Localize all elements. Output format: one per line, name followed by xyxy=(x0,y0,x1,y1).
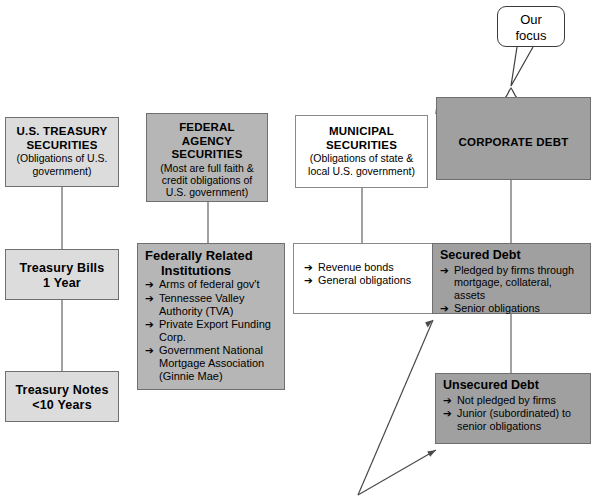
node-subtitle: (Obligations of U.S. government) xyxy=(12,152,112,177)
node-federally-related-institutions: Federally Related Institutions ➔Arms of … xyxy=(137,243,285,390)
node-secured-debt: Secured Debt ➔Pledged by firms through m… xyxy=(432,243,591,314)
node-corporate-debt: CORPORATE DEBT xyxy=(436,97,591,180)
list-item-label: Private Export Funding Corp. xyxy=(159,318,271,343)
subtitle-line-1: (Obligations of U.S. xyxy=(16,152,107,164)
node-treasury-bills: Treasury Bills 1 Year xyxy=(5,249,119,300)
subtitle-line-2: government) xyxy=(33,165,92,177)
title-line-1: Treasury Notes xyxy=(15,383,108,397)
node-title: CORPORATE DEBT xyxy=(437,136,590,150)
title-line-1: Federally Related xyxy=(145,248,253,263)
title-line-1: Treasury Bills xyxy=(20,261,105,275)
callout-line-2: focus xyxy=(515,28,546,43)
arrow-bullet-icon: ➔ xyxy=(304,274,313,286)
node-title: U.S. TREASURY SECURITIES xyxy=(12,125,112,152)
list-item-label: Junior (subordinated) to senior obligati… xyxy=(457,407,571,432)
subtitle-line-1: (Obligations of state & xyxy=(310,152,413,164)
arrow-bullet-icon: ➔ xyxy=(440,264,449,276)
node-title: FEDERAL AGENCY SECURITIES xyxy=(153,121,261,162)
list-item: ➔Revenue bonds xyxy=(304,261,431,274)
list-item: ➔Senior obligations xyxy=(440,302,585,315)
arrow-bullet-icon: ➔ xyxy=(145,318,154,330)
bullet-list: ➔Arms of federal gov't ➔Tennessee Valley… xyxy=(145,278,279,383)
bullet-list: ➔Pledged by firms through mortgage, coll… xyxy=(440,264,585,315)
node-title: Secured Debt xyxy=(440,248,585,263)
callout-line-1: Our xyxy=(520,12,542,27)
subtitle-line-3: U.S. government) xyxy=(166,186,248,198)
node-title: Federally Related Institutions xyxy=(145,249,279,278)
node-treasury-notes: Treasury Notes <10 Years xyxy=(5,371,119,422)
list-item-label: Revenue bonds xyxy=(318,261,394,273)
diagram-canvas: Our focus U.S. TREASURY SECURITIES (Obli… xyxy=(0,0,594,499)
list-item: ➔General obligations xyxy=(304,274,431,287)
subtitle-line-2: local U.S. government) xyxy=(308,165,415,177)
callout-tail xyxy=(511,47,533,86)
arrow-bullet-icon: ➔ xyxy=(145,278,154,290)
title-line-2: 1 Year xyxy=(43,276,81,290)
arrow-bullet-icon: ➔ xyxy=(443,407,452,419)
list-item: ➔Junior (subordinated) to senior obligat… xyxy=(443,407,585,432)
node-municipal-securities: MUNICIPAL SECURITIES (Obligations of sta… xyxy=(295,115,428,188)
list-item: ➔Arms of federal gov't xyxy=(145,278,279,291)
arrow-bullet-icon: ➔ xyxy=(440,302,449,314)
title-line-2: SECURITIES xyxy=(26,139,97,151)
list-item-label: Senior obligations xyxy=(454,302,540,314)
node-title: Treasury Notes <10 Years xyxy=(6,383,118,413)
title-line-2: Institutions xyxy=(145,264,279,279)
node-subtitle: (Most are full faith & credit obligation… xyxy=(153,162,261,199)
title-line-1: FEDERAL AGENCY xyxy=(179,121,235,147)
our-focus-callout: Our focus xyxy=(497,6,565,47)
arrow-bullet-icon: ➔ xyxy=(145,344,154,356)
bullet-list: ➔Not pledged by firms ➔Junior (subordina… xyxy=(443,394,585,433)
list-item: ➔Government National Mortgage Associatio… xyxy=(145,344,279,383)
arrow-bullet-icon: ➔ xyxy=(443,394,452,406)
list-item: ➔Private Export Funding Corp. xyxy=(145,318,279,344)
title-line-2: SECURITIES xyxy=(326,139,397,151)
title-line-2: <10 Years xyxy=(32,398,92,412)
title-line-2: SECURITIES xyxy=(171,148,242,160)
node-unsecured-debt: Unsecured Debt ➔Not pledged by firms ➔Ju… xyxy=(435,373,591,444)
node-us-treasury-securities: U.S. TREASURY SECURITIES (Obligations of… xyxy=(5,117,119,187)
subtitle-line-2: credit obligations of xyxy=(162,174,252,186)
arrow-bullet-icon: ➔ xyxy=(145,292,154,304)
list-item-label: Tennessee Valley Authority (TVA) xyxy=(159,292,244,317)
node-federal-agency-securities: FEDERAL AGENCY SECURITIES (Most are full… xyxy=(146,113,268,202)
list-item: ➔Not pledged by firms xyxy=(443,394,585,407)
title-line-1: U.S. TREASURY xyxy=(17,125,108,137)
node-municipal-children: ➔Revenue bonds ➔General obligations xyxy=(293,243,438,314)
node-title: MUNICIPAL SECURITIES xyxy=(303,125,420,152)
node-title: Unsecured Debt xyxy=(443,378,585,393)
list-item-label: Arms of federal gov't xyxy=(159,278,260,290)
title-line-1: MUNICIPAL xyxy=(329,125,394,137)
bullet-list: ➔Revenue bonds ➔General obligations xyxy=(304,261,431,287)
arrow-bullet-icon: ➔ xyxy=(304,261,313,273)
list-item-label: Government National Mortgage Association… xyxy=(159,344,264,382)
list-item-label: General obligations xyxy=(318,274,411,286)
subtitle-line-1: (Most are full faith & xyxy=(160,162,253,174)
node-title: Treasury Bills 1 Year xyxy=(6,261,118,291)
list-item-label: Pledged by firms through mortgage, colla… xyxy=(454,264,574,301)
list-item-label: Not pledged by firms xyxy=(457,394,556,406)
node-subtitle: (Obligations of state & local U.S. gover… xyxy=(303,152,420,177)
list-item: ➔Tennessee Valley Authority (TVA) xyxy=(145,292,279,318)
list-item: ➔Pledged by firms through mortgage, coll… xyxy=(440,264,585,302)
focus-arrows xyxy=(358,320,436,495)
